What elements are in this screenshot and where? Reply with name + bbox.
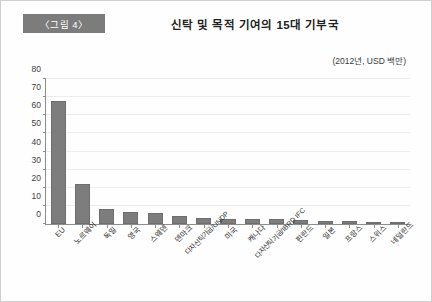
y-axis-tick-label: 20 <box>32 173 41 183</box>
unit-note: (2012년, USD 백만) <box>332 54 406 66</box>
x-axis-labels: EU노르웨이독일영국스웨덴덴마크다자신탁기금/UNDP미국캐나다다자신탁기금/I… <box>45 227 410 297</box>
bar[interactable] <box>123 212 138 224</box>
y-axis-tick-label: 50 <box>32 118 41 128</box>
x-axis-tick-label: EU <box>53 225 67 239</box>
x-label-slot: 스위스 <box>361 227 385 297</box>
x-axis-tick-label: 영국 <box>125 224 143 242</box>
bar[interactable] <box>75 184 90 224</box>
bar-slot <box>289 79 313 224</box>
bar[interactable] <box>51 101 66 224</box>
x-label-slot: 노르웨이 <box>69 227 93 297</box>
y-axis-tick-label: 30 <box>32 155 41 165</box>
bar-slot <box>95 79 119 224</box>
x-axis-tick-label: 일본 <box>320 224 338 242</box>
x-label-slot: 일본 <box>313 227 337 297</box>
y-axis-tick-label: 60 <box>32 100 41 110</box>
figure-header: 〈그림 4〉 신탁 및 목적 기여의 15대 기부국 <box>1 11 432 37</box>
bar[interactable] <box>99 209 114 224</box>
y-axis-tick-label: 80 <box>32 64 41 74</box>
x-label-slot: 영국 <box>118 227 142 297</box>
figure-container: 〈그림 4〉 신탁 및 목적 기여의 15대 기부국 (2012년, USD 백… <box>0 0 432 302</box>
bar-slot <box>313 79 337 224</box>
bar-slot <box>70 79 94 224</box>
x-label-slot: 독일 <box>94 227 118 297</box>
x-axis-tick-label: 미국 <box>223 224 241 242</box>
x-label-slot: 미국 <box>215 227 239 297</box>
x-label-slot: 덴마크 <box>167 227 191 297</box>
bar-slot <box>192 79 216 224</box>
y-axis-tick-label: 40 <box>32 137 41 147</box>
x-axis-tick-label: 독일 <box>101 224 119 242</box>
bar-slot <box>46 79 70 224</box>
x-label-slot: 스웨덴 <box>142 227 166 297</box>
bar-slot <box>386 79 410 224</box>
figure-number-badge: 〈그림 4〉 <box>23 14 105 33</box>
bar-slot <box>337 79 361 224</box>
x-label-slot: EU <box>45 227 69 297</box>
y-axis-tick-label: 10 <box>32 191 41 201</box>
bar-slot <box>119 79 143 224</box>
x-label-slot: 다자신탁기금/IBRD IFC <box>264 227 288 297</box>
bar-slot <box>264 79 288 224</box>
x-label-slot: 네덜란드 <box>386 227 410 297</box>
x-label-slot: 핀란드 <box>288 227 312 297</box>
y-axis-tick-label: 70 <box>32 82 41 92</box>
bar-slot <box>167 79 191 224</box>
plot-area: 01020304050607080 <box>45 79 410 225</box>
y-axis-tick-label: 0 <box>36 209 41 219</box>
x-label-slot: 프랑스 <box>337 227 361 297</box>
bar-slot <box>361 79 385 224</box>
bar-slot <box>240 79 264 224</box>
x-label-slot: 다자신탁기금/UNDP <box>191 227 215 297</box>
bar-slot <box>143 79 167 224</box>
bar-series <box>46 79 410 224</box>
x-label-slot: 캐나다 <box>240 227 264 297</box>
bar-slot <box>216 79 240 224</box>
page-title: 신탁 및 목적 기여의 15대 기부국 <box>105 11 405 36</box>
